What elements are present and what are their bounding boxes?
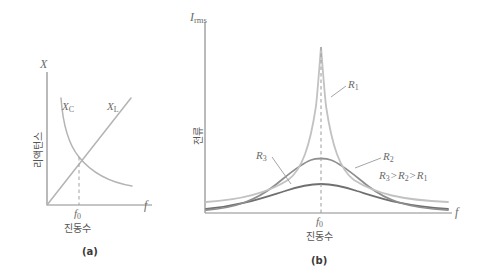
- panel-b-graphics: [205, 22, 452, 213]
- panel-a-graphics: [47, 72, 152, 205]
- panel-b-leader-r1: [331, 86, 346, 97]
- figure-container: X 리액턴스 f f0 진동수 XC XL (a) Irms 전류 f f0 진…: [0, 0, 481, 279]
- panel-b-leader-r2: [355, 158, 381, 168]
- panel-b-curve-r1: [206, 47, 448, 202]
- figure-svg: [0, 0, 481, 279]
- panel-a-curve-xl: [47, 98, 131, 205]
